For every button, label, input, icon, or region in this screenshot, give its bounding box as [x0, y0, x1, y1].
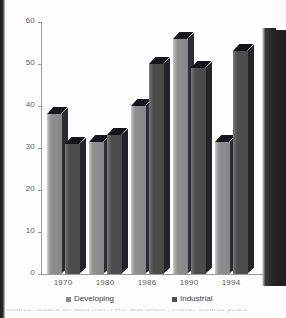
scan-edge-artifact-right [262, 28, 286, 286]
bar-industrial-1970[interactable] [65, 144, 79, 274]
x-axis-label-1990: 1990 [167, 278, 211, 288]
x-axis-label-1970: 1970 [41, 278, 85, 288]
bar-side-face [121, 129, 128, 274]
bar-front-face [149, 64, 164, 274]
y-axis-tick-30: 30 [5, 148, 41, 149]
y-axis-tick-40: 40 [5, 106, 41, 107]
y-tick-label: 60 [26, 16, 35, 26]
bar-industrial-1990[interactable] [191, 68, 205, 274]
bar-side-face [205, 62, 212, 274]
bar-side-face [163, 58, 170, 274]
y-axis-tick-0: 0 [5, 274, 41, 275]
y-axis-tick-50: 50 [5, 64, 41, 65]
bar-front-face [89, 142, 104, 274]
legend-label: Industrial [180, 294, 212, 304]
bar-chart: 60 50 40 30 20 10 0 [5, 6, 262, 288]
bar-front-face [191, 68, 206, 274]
bar-front-face [173, 39, 188, 274]
legend-label: Developing [74, 294, 114, 304]
bar-developing-1990[interactable] [173, 39, 187, 274]
y-tick-label: 20 [26, 184, 35, 194]
bar-side-face [247, 45, 254, 274]
bar-industrial-1986[interactable] [149, 64, 163, 274]
source-caption-cropped: Source: Based on data from FAO and UNDP,… [6, 309, 274, 318]
bar-front-face [65, 144, 80, 274]
x-axis-label-1980: 1980 [83, 278, 127, 288]
bar-developing-1986[interactable] [131, 106, 145, 274]
plot-area [41, 22, 255, 274]
y-axis-tick-60: 60 [5, 22, 41, 23]
legend-item-industrial[interactable]: Industrial [172, 294, 212, 304]
x-axis-label-1986: 1986 [125, 278, 169, 288]
bar-industrial-1980[interactable] [107, 135, 121, 274]
y-tick-label: 50 [26, 58, 35, 68]
y-tick-label: 0 [30, 268, 35, 278]
bar-front-face [131, 106, 146, 274]
y-tick-label: 10 [26, 226, 35, 236]
bar-front-face [215, 142, 230, 274]
y-axis-tick-10: 10 [5, 232, 41, 233]
bar-side-face [79, 138, 86, 274]
bar-developing-1994[interactable] [215, 142, 229, 274]
x-axis-line [41, 274, 263, 275]
legend-swatch-icon [172, 297, 177, 302]
bar-developing-1970[interactable] [47, 114, 61, 274]
scanned-page: 60 50 40 30 20 10 0 [0, 0, 286, 318]
chart-legend: Developing Industrial [41, 294, 255, 308]
source-caption-text: Source: Based on data from FAO and UNDP,… [6, 309, 247, 314]
bar-developing-1980[interactable] [89, 142, 103, 274]
bar-industrial-1994[interactable] [233, 51, 247, 274]
y-tick-label: 40 [26, 100, 35, 110]
x-axis-label-1994: 1994 [209, 278, 253, 288]
bar-front-face [107, 135, 122, 274]
legend-item-developing[interactable]: Developing [66, 294, 114, 304]
y-tick-label: 30 [26, 142, 35, 152]
bar-front-face [47, 114, 62, 274]
y-axis-tick-20: 20 [5, 190, 41, 191]
legend-swatch-icon [66, 297, 71, 302]
scan-edge-artifact-right-top [276, 0, 286, 30]
bar-front-face [233, 51, 248, 274]
